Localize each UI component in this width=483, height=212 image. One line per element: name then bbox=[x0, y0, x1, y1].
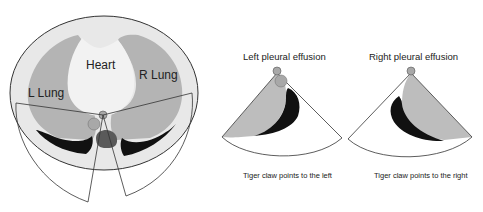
aorta-icon bbox=[275, 75, 287, 87]
right-effusion-caption: Tiger claw points to the right bbox=[374, 171, 468, 180]
right-lung-label: R Lung bbox=[139, 68, 178, 82]
right-effusion-title: Right pleural effusion bbox=[369, 51, 458, 62]
left-effusion-title: Left pleural effusion bbox=[243, 51, 326, 62]
probe-icon bbox=[273, 67, 281, 75]
left-lung-label: L Lung bbox=[28, 86, 64, 100]
thorax-cross-section: Heart R Lung L Lung bbox=[10, 16, 198, 202]
probe-icon bbox=[407, 67, 415, 75]
right-effusion-panel: Right pleural effusion Tiger claw points… bbox=[345, 51, 480, 180]
left-effusion-panel: Left pleural effusion Tiger claw points … bbox=[215, 51, 350, 180]
heart-label: Heart bbox=[86, 58, 116, 72]
aorta-shape bbox=[88, 118, 100, 130]
pleural-effusion-diagram: Heart R Lung L Lung Left pleural effusio… bbox=[0, 0, 483, 212]
heart-shape bbox=[68, 38, 135, 116]
left-effusion-caption: Tiger claw points to the left bbox=[243, 171, 333, 180]
